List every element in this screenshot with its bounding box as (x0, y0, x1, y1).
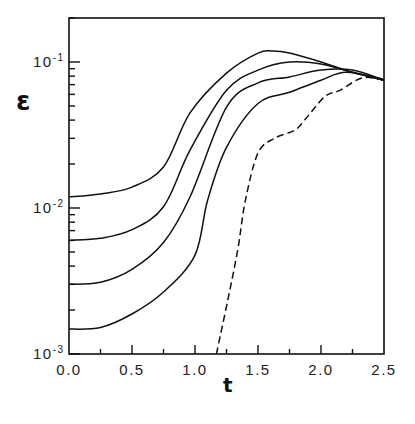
x-tick-label: 0.0 (56, 361, 81, 378)
series-curve-dashed (216, 77, 384, 354)
y-axis-label: ε (16, 86, 30, 116)
x-tick-label: 2.0 (308, 361, 333, 378)
x-axis-label: t (223, 373, 233, 397)
y-tick-label: 10-3 (33, 344, 65, 362)
series-curve-3 (69, 69, 384, 284)
x-tick-label: 1.0 (182, 361, 207, 378)
x-tick-label: 2.5 (371, 361, 396, 378)
series-curve-1 (69, 51, 384, 197)
y-tick-label: 10-1 (33, 52, 65, 70)
y-tick-exponent: -2 (53, 198, 65, 209)
line-chart: 0.00.51.01.52.02.510-110-210-3 ε t (0, 0, 415, 424)
x-tick-label: 1.5 (245, 361, 270, 378)
y-tick-exponent: -3 (53, 344, 65, 355)
x-tick-label: 0.5 (119, 361, 144, 378)
series-curve-4 (69, 72, 384, 329)
series-curve-2 (69, 62, 384, 241)
axis-ticks (69, 18, 353, 354)
series-layer (69, 51, 384, 354)
y-tick-exponent: -1 (53, 52, 65, 63)
y-tick-label: 10-2 (33, 198, 65, 216)
